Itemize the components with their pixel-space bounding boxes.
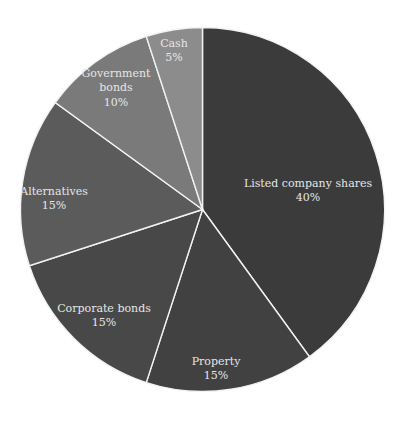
pie-chart: Listed company shares40%Property15%Corpo…	[0, 0, 403, 422]
pie-slices	[21, 28, 385, 392]
